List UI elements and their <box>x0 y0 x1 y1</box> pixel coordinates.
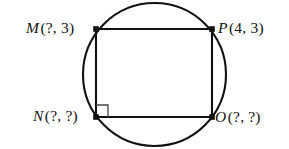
vertex-dot-P <box>209 26 215 32</box>
point-label-P: P(4, 3) <box>218 20 264 36</box>
point-coords-M: (?, 3) <box>40 19 74 36</box>
point-coords-P: (4, 3) <box>229 19 264 36</box>
geometry-figure: M(?, 3) P(4, 3) N(?, ?) O(?, ?) <box>0 0 289 149</box>
vertex-dot-N <box>93 114 99 120</box>
circumscribed-circle <box>83 3 226 146</box>
vertex-dot-O <box>209 114 215 120</box>
point-name-M: M <box>26 19 40 36</box>
point-label-N: N(?, ?) <box>33 108 78 124</box>
point-label-O: O(?, ?) <box>215 109 261 125</box>
point-name-O: O <box>215 108 228 125</box>
point-coords-N: (?, ?) <box>45 107 78 124</box>
point-label-M: M(?, 3) <box>26 20 74 36</box>
point-name-P: P <box>218 19 229 36</box>
vertex-dot-M <box>93 26 99 32</box>
point-name-N: N <box>33 107 45 124</box>
point-coords-O: (?, ?) <box>228 108 261 125</box>
rectangle-MNOP <box>96 29 212 117</box>
